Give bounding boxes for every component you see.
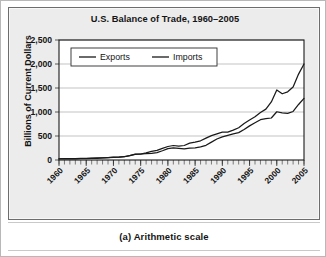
legend-label-exports: Exports <box>100 52 130 62</box>
y-tick-label: 2,500 <box>30 35 52 45</box>
y-tick-label: 1,000 <box>30 107 52 117</box>
caption-band: (a) Arithmetic scale <box>8 222 320 251</box>
x-tick-label: 2005 <box>290 165 310 185</box>
y-tick-label: 0 <box>47 155 52 165</box>
x-tick-label: 1980 <box>154 165 174 185</box>
x-axis-ticks <box>59 160 304 166</box>
chart-plot-area: 05001,0001,5002,0002,500 196019651970197… <box>9 8 319 219</box>
x-tick-label: 1985 <box>181 165 201 185</box>
y-tick-label: 500 <box>38 131 53 141</box>
y-tick-label: 1,500 <box>30 83 52 93</box>
figure-container: U.S. Balance of Trade, 1960–2005 Billion… <box>0 0 326 257</box>
x-tick-label: 1990 <box>208 165 228 185</box>
x-tick-label: 1995 <box>235 165 255 185</box>
x-axis-minor-ticks <box>59 160 304 165</box>
x-tick-label: 1975 <box>126 165 146 185</box>
figure-caption: (a) Arithmetic scale <box>119 231 208 242</box>
legend-label-imports: Imports <box>173 52 203 62</box>
x-tick-label: 1970 <box>99 165 119 185</box>
x-tick-label: 2000 <box>262 165 282 185</box>
chart-panel: U.S. Balance of Trade, 1960–2005 Billion… <box>8 7 320 220</box>
chart-legend: ExportsImports <box>71 48 217 66</box>
y-axis-ticks <box>55 40 59 160</box>
x-tick-label: 1965 <box>72 165 92 185</box>
y-tick-label: 2,000 <box>30 59 52 69</box>
x-axis-tick-labels: 1960196519701975198019851990199520002005 <box>45 165 310 185</box>
y-axis-tick-labels: 05001,0001,5002,0002,500 <box>30 35 52 165</box>
x-tick-label: 1960 <box>45 165 65 185</box>
